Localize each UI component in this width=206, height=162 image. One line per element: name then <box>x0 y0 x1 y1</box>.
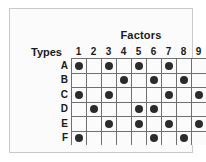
row-header-f: F <box>50 131 68 146</box>
row-header-column: A B C D E F <box>50 58 68 145</box>
matrix-cell-c-6[interactable] <box>147 88 162 102</box>
matrix-cell-a-2[interactable] <box>87 59 102 73</box>
column-header-8: 8 <box>176 45 191 58</box>
matrix-dot-marker <box>120 76 128 84</box>
matrix-cell-a-1[interactable] <box>72 59 87 73</box>
row-header-a: A <box>50 58 68 73</box>
matrix-cell-b-4[interactable] <box>117 74 132 88</box>
column-header-6: 6 <box>146 45 161 58</box>
matrix-cell-f-7[interactable] <box>162 132 177 146</box>
matrix-row-d <box>72 103 203 118</box>
matrix-cell-f-3[interactable] <box>102 132 117 146</box>
matrix-cell-b-5[interactable] <box>132 74 147 88</box>
matrix-dot-marker <box>75 91 83 99</box>
matrix-cell-a-8[interactable] <box>177 59 192 73</box>
matrix-cell-e-3[interactable] <box>102 117 117 131</box>
column-header-2: 2 <box>86 45 101 58</box>
matrix-cell-a-9[interactable] <box>192 59 203 73</box>
matrix-row-c <box>72 88 203 103</box>
matrix-cell-e-8[interactable] <box>177 117 192 131</box>
matrix-dot-marker <box>105 91 113 99</box>
matrix-cell-f-5[interactable] <box>132 132 147 146</box>
row-header-e: E <box>50 116 68 131</box>
column-axis-title: Factors <box>110 29 172 41</box>
matrix-cell-e-4[interactable] <box>117 117 132 131</box>
matrix-cell-e-2[interactable] <box>87 117 102 131</box>
matrix-cell-a-6[interactable] <box>147 59 162 73</box>
column-header-4: 4 <box>116 45 131 58</box>
matrix-row-a <box>72 59 203 74</box>
matrix-cell-b-8[interactable] <box>177 74 192 88</box>
matrix-cell-d-2[interactable] <box>87 103 102 117</box>
matrix-cell-e-9[interactable] <box>192 117 203 131</box>
matrix-cell-c-3[interactable] <box>102 88 117 102</box>
matrix-cell-a-7[interactable] <box>162 59 177 73</box>
matrix-dot-marker <box>75 62 83 70</box>
matrix-cell-d-1[interactable] <box>72 103 87 117</box>
matrix-cell-c-1[interactable] <box>72 88 87 102</box>
matrix-cell-d-5[interactable] <box>132 103 147 117</box>
matrix-cell-c-9[interactable] <box>192 88 203 102</box>
matrix-cell-c-7[interactable] <box>162 88 177 102</box>
matrix-cell-d-9[interactable] <box>192 103 203 117</box>
matrix-cell-a-4[interactable] <box>117 59 132 73</box>
matrix-cell-f-1[interactable] <box>72 132 87 146</box>
matrix-cell-b-1[interactable] <box>72 74 87 88</box>
matrix-dot-marker <box>105 120 113 128</box>
matrix-cell-d-6[interactable] <box>147 103 162 117</box>
matrix-dot-marker <box>150 105 158 113</box>
column-header-row: 1 2 3 4 5 6 7 8 9 <box>71 45 203 58</box>
matrix-cell-d-8[interactable] <box>177 103 192 117</box>
matrix-cell-c-4[interactable] <box>117 88 132 102</box>
matrix-cell-b-6[interactable] <box>147 74 162 88</box>
matrix-dot-marker <box>135 105 143 113</box>
matrix-dot-marker <box>105 62 113 70</box>
matrix-cell-e-7[interactable] <box>162 117 177 131</box>
matrix-dot-marker <box>135 62 143 70</box>
matrix-dot-marker <box>165 120 173 128</box>
matrix-cell-f-2[interactable] <box>87 132 102 146</box>
matrix-dot-marker <box>150 134 158 142</box>
matrix-cell-b-7[interactable] <box>162 74 177 88</box>
matrix-cell-a-3[interactable] <box>102 59 117 73</box>
matrix-dot-marker <box>75 134 83 142</box>
matrix-dot-marker <box>90 105 98 113</box>
matrix-row-e <box>72 117 203 132</box>
matrix-cell-c-2[interactable] <box>87 88 102 102</box>
matrix-dot-marker <box>135 120 143 128</box>
column-header-7: 7 <box>161 45 176 58</box>
matrix-cell-d-7[interactable] <box>162 103 177 117</box>
matrix-cell-f-8[interactable] <box>177 132 192 146</box>
matrix-dot-marker <box>165 91 173 99</box>
matrix-dot-marker <box>180 134 188 142</box>
matrix-cell-f-9[interactable] <box>192 132 203 146</box>
incidence-matrix-grid <box>71 58 203 145</box>
row-header-c: C <box>50 87 68 102</box>
matrix-cell-d-3[interactable] <box>102 103 117 117</box>
matrix-cell-e-6[interactable] <box>147 117 162 131</box>
matrix-row-f <box>72 132 203 146</box>
matrix-cell-e-1[interactable] <box>72 117 87 131</box>
column-header-1: 1 <box>71 45 86 58</box>
matrix-cell-b-3[interactable] <box>102 74 117 88</box>
row-header-d: D <box>50 102 68 117</box>
figure-frame: Factors Types 1 2 3 4 5 6 7 8 9 A B C D … <box>9 8 193 153</box>
matrix-cell-d-4[interactable] <box>117 103 132 117</box>
matrix-cell-f-4[interactable] <box>117 132 132 146</box>
column-header-9: 9 <box>191 45 203 58</box>
matrix-dot-marker <box>165 62 173 70</box>
matrix-cell-b-2[interactable] <box>87 74 102 88</box>
matrix-cell-f-6[interactable] <box>147 132 162 146</box>
matrix-cell-c-5[interactable] <box>132 88 147 102</box>
matrix-dot-marker <box>150 76 158 84</box>
matrix-dot-marker <box>180 76 188 84</box>
matrix-cell-e-5[interactable] <box>132 117 147 131</box>
row-axis-title: Types <box>31 46 62 58</box>
matrix-cell-c-8[interactable] <box>177 88 192 102</box>
column-header-3: 3 <box>101 45 116 58</box>
column-header-5: 5 <box>131 45 146 58</box>
matrix-cell-b-9[interactable] <box>192 74 203 88</box>
matrix-row-b <box>72 74 203 89</box>
matrix-dot-marker <box>195 120 203 128</box>
matrix-cell-a-5[interactable] <box>132 59 147 73</box>
